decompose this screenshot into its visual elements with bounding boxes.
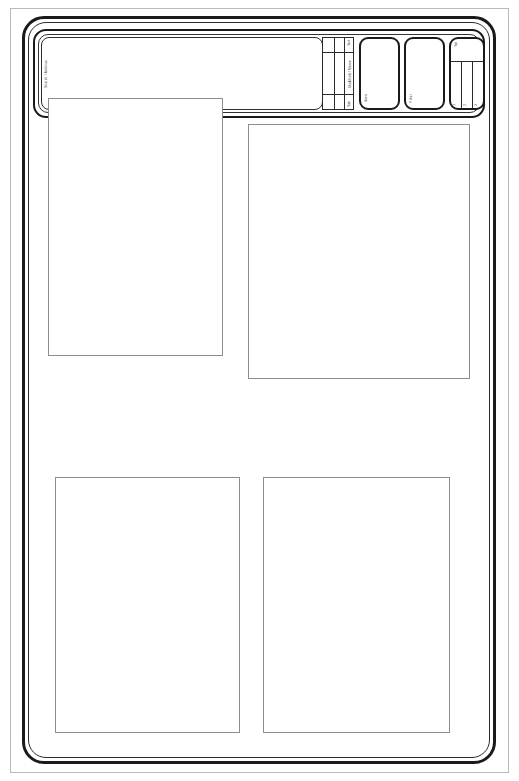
sort-top-label: Sort xyxy=(347,40,351,46)
column-cell[interactable]: 3 xyxy=(473,62,483,108)
toolbar-card-filter-label: Filter xyxy=(410,94,413,102)
column-grid: 1 2 3 xyxy=(451,61,483,108)
column-cell-tick: 3 xyxy=(474,104,478,106)
toolbar-card-filter[interactable]: Filter xyxy=(404,37,445,110)
content-panel-bottom-right[interactable] xyxy=(263,477,450,733)
column-cell[interactable]: 1 xyxy=(451,62,462,108)
divider-bottom xyxy=(323,94,353,95)
column-cell-tick: 2 xyxy=(463,104,467,106)
toolbar-card-columns-header: Set xyxy=(454,42,458,47)
sort-selector[interactable]: Sort Modified / Name Size xyxy=(322,37,354,110)
search-input-label: Search / Address xyxy=(45,60,48,87)
sort-vertical-label: Modified / Name xyxy=(349,60,352,88)
toolbar-card-view[interactable]: View xyxy=(359,37,400,110)
content-panel-bottom-left[interactable] xyxy=(55,477,240,733)
screenshot-canvas: Search / Address Sort Modified / Name Si… xyxy=(0,0,519,781)
column-cell[interactable]: 2 xyxy=(462,62,473,108)
divider-vertical-b xyxy=(344,38,345,109)
column-cell-tick: 1 xyxy=(452,104,456,106)
content-panel-top-left[interactable] xyxy=(48,98,223,356)
divider-top xyxy=(323,52,353,53)
toolbar-card-columns[interactable]: Set 1 2 3 xyxy=(449,37,485,110)
divider-vertical-a xyxy=(334,38,335,109)
sort-bottom-label: Size xyxy=(347,101,351,107)
toolbar-card-view-label: View xyxy=(365,94,368,102)
content-panel-top-right[interactable] xyxy=(248,124,470,379)
